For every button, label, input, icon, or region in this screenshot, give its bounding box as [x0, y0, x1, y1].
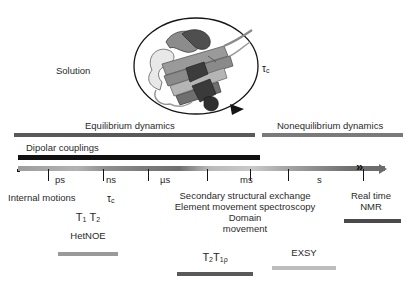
axis-unit-us: µs [160, 174, 170, 185]
exsy-bar [272, 266, 336, 270]
relaxation-methods-bar [58, 252, 118, 256]
rotation-arrowhead [230, 104, 244, 115]
axis-tick [48, 169, 49, 181]
realtime-nmr-descriptor-block: Real time NMR [336, 190, 406, 212]
internal-motions-label: Internal motions [8, 192, 76, 203]
t1-t2-label: T1 T2 [48, 212, 128, 225]
exsy-block: EXSY [274, 247, 334, 258]
axis-unit-s: s [317, 174, 322, 185]
axis-unit-ms: ms [240, 174, 253, 185]
t1rho-symbol: T [213, 251, 220, 263]
t2-t1rho-block: T2T1ρ [175, 252, 255, 265]
tau-c-rotation-label: τc [262, 63, 269, 74]
axis-tick [103, 169, 104, 181]
element-movement-spectroscopy-label: Element movement spectroscopy [155, 201, 335, 212]
axis-unit-ns: ns [106, 174, 116, 185]
axis-unit-ps: ps [55, 174, 65, 185]
movement-label: movement [155, 223, 335, 234]
axis-gradient-bar [18, 166, 385, 171]
t1-symbol: T [76, 211, 83, 223]
real-time-label: Real time [336, 190, 406, 201]
tau-subscript: c [266, 67, 270, 74]
protein-rotation-diagram [126, 12, 276, 127]
t2-t1rho-bar [177, 272, 253, 276]
protein-ribbon [149, 30, 252, 111]
solution-label: Solution [56, 65, 90, 76]
t2-subscript: 2 [96, 216, 100, 223]
equilibrium-dynamics-label: Equilibrium dynamics [85, 120, 175, 131]
tau-subscript: c [111, 197, 115, 204]
tau-c-axis-label: τc [107, 193, 114, 204]
t1-subscript: 1 [83, 216, 87, 223]
realtime-nmr-bar [344, 219, 401, 223]
domain-label: Domain [155, 212, 335, 223]
nmr-label: NMR [336, 201, 406, 212]
exsy-label: EXSY [274, 247, 334, 258]
nmr-timescale-figure: Solution τc Equilibrium dynamics Nonequi… [0, 0, 411, 284]
dipolar-couplings-label: Dipolar couplings [26, 142, 99, 153]
equilibrium-dynamics-bar [14, 133, 255, 137]
exchange-descriptor-block: Secondary structural exchange Element mo… [155, 190, 335, 234]
axis-tick [148, 169, 149, 181]
axis-arrowhead [379, 164, 387, 174]
axis-tick [207, 169, 208, 181]
relaxation-methods-block: T1 T2 HetNOE [48, 212, 128, 241]
t2-t1rho-label: T2T1ρ [175, 252, 255, 265]
hetnoe-label: HetNOE [48, 230, 128, 241]
axis-tick [288, 169, 289, 181]
nonequilibrium-dynamics-label: Nonequilibrium dynamics [277, 120, 383, 131]
axis-break-marker: » [356, 159, 360, 174]
axis-tick [363, 169, 364, 181]
secondary-structural-exchange-label: Secondary structural exchange [155, 190, 335, 201]
t1rho-subscript: 1ρ [220, 256, 228, 263]
nonequilibrium-dynamics-bar [262, 133, 403, 137]
